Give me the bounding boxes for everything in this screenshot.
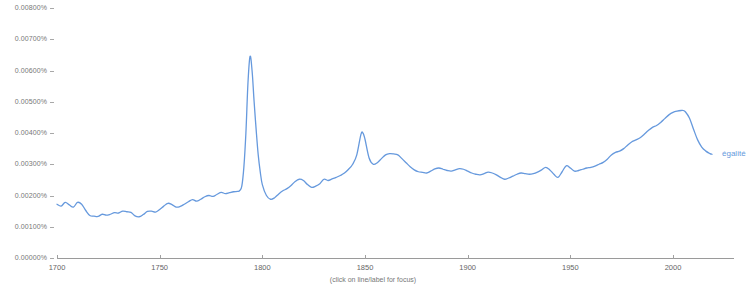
x-axis-line [57, 258, 734, 259]
x-axis-label: 1900 [448, 263, 488, 272]
series-line-egalite[interactable] [57, 56, 712, 217]
ngram-chart: 0.00000%0.00100%0.00200%0.00300%0.00400%… [0, 0, 746, 290]
series-label-egalite[interactable]: égalité [722, 149, 746, 159]
x-axis-label: 1950 [550, 263, 590, 272]
chart-caption: (click on line/label for focus) [0, 276, 746, 283]
x-axis-tick [570, 255, 571, 259]
x-axis-label: 1850 [345, 263, 385, 272]
plot-area [0, 0, 746, 290]
x-axis-tick [160, 255, 161, 259]
x-axis-label: 1750 [140, 263, 180, 272]
x-axis-label: 1700 [37, 263, 77, 272]
x-axis-tick [262, 255, 263, 259]
x-axis-tick [365, 255, 366, 259]
x-axis-label: 2000 [653, 263, 693, 272]
x-axis-tick [57, 255, 58, 259]
x-axis-tick [673, 255, 674, 259]
x-axis-tick [468, 255, 469, 259]
x-axis-label: 1800 [242, 263, 282, 272]
